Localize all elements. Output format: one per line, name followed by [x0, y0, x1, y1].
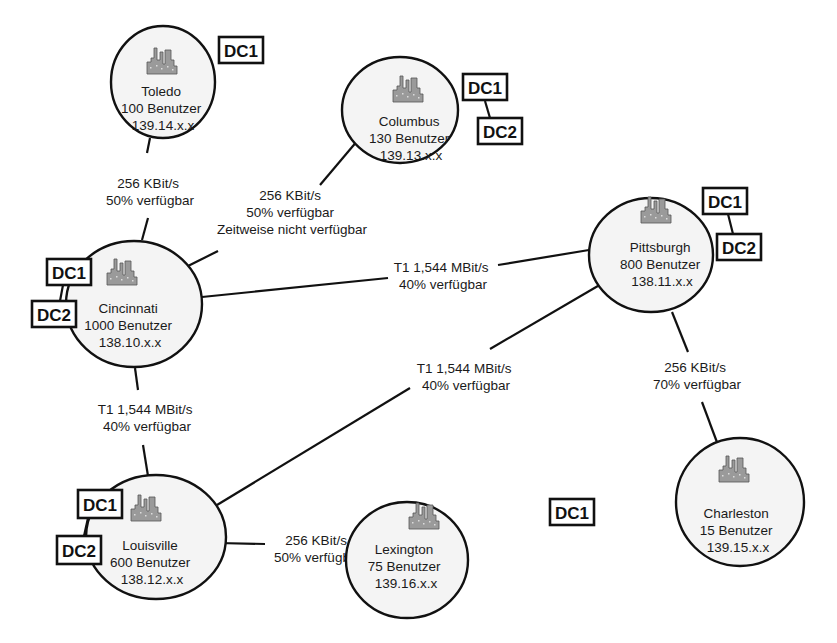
dc1-badge: DC1 [47, 259, 91, 285]
site-label: Pittsburgh 800 Benutzer 138.11.x.x [620, 240, 704, 289]
site-label-lines: Lexington 75 Benutzer 139.16.x.x [368, 542, 445, 591]
site-toledo[interactable]: Toledo 100 Benutzer 139.14.x.x DC1 [111, 26, 263, 138]
dc1-badge: DC1 [78, 490, 122, 518]
link-label: T1 1,544 MBit/s 40% verfügbar [98, 402, 196, 434]
svg-text:DC2: DC2 [483, 123, 517, 142]
dc2-badge: DC2 [478, 118, 522, 144]
site-louisville[interactable]: Louisville 600 Benutzer 138.12.x.x DC1 D… [57, 475, 226, 599]
link-label: T1 1,544 MBit/s 40% verfügbar [394, 260, 492, 292]
svg-text:DC2: DC2 [62, 542, 96, 561]
site-pittsburgh[interactable]: Pittsburgh 800 Benutzer 138.11.x.x DC1 D… [589, 188, 761, 312]
site-charleston[interactable]: Charleston 15 Benutzer 139.15.x.x [676, 438, 804, 566]
link-label: 256 KBit/s 70% verfügbar [653, 360, 741, 392]
link-label: 256 KBit/s 50% verfügbar Zeitweise nicht… [217, 188, 368, 237]
link-cincinnati-pittsburgh: T1 1,544 MBit/s 40% verfügbar [202, 250, 589, 297]
site-lexington[interactable]: Lexington 75 Benutzer 139.16.x.x DC1 [346, 499, 594, 618]
link-columbus-cincinnati: 256 KBit/s 50% verfügbar Zeitweise nicht… [188, 140, 368, 266]
svg-text:DC2: DC2 [37, 306, 71, 325]
site-cincinnati[interactable]: Cincinnati 1000 Benutzer 138.10.x.x DC1 … [32, 241, 202, 367]
dc1-badge: DC1 [703, 188, 747, 214]
svg-text:DC1: DC1 [83, 496, 117, 515]
site-label: Louisville 600 Benutzer 138.12.x.x [110, 538, 194, 587]
site-columbus[interactable]: Columbus 130 Benutzer 139.13.x.x DC1 DC2 [342, 57, 522, 163]
svg-text:DC1: DC1 [555, 504, 589, 523]
link-label: T1 1,544 MBit/s 40% verfügbar [417, 361, 515, 393]
svg-text:DC1: DC1 [52, 264, 86, 283]
site-label: Columbus 130 Benutzer 139.13.x.x [369, 114, 453, 163]
link-pittsburgh-charleston: 256 KBit/s 70% verfügbar [653, 312, 741, 445]
dc2-badge: DC2 [717, 234, 761, 260]
dc2-badge: DC2 [57, 536, 101, 564]
dc1-badge: DC1 [463, 74, 507, 100]
link-toledo-cincinnati: 256 KBit/s 50% verfügbar [106, 138, 194, 240]
svg-text:DC1: DC1 [468, 79, 502, 98]
dc1-badge: DC1 [550, 499, 594, 525]
link-louisville-pittsburgh: T1 1,544 MBit/s 40% verfügbar [217, 283, 603, 505]
network-diagram: 256 KBit/s 50% verfügbar 256 KBit/s 50% … [0, 0, 837, 643]
dc2-badge: DC2 [32, 301, 76, 327]
svg-text:DC1: DC1 [708, 193, 742, 212]
link-label: 256 KBit/s 50% verfügbar [106, 176, 194, 208]
dc1-badge: DC1 [219, 37, 263, 63]
site-label: Charleston 15 Benutzer 139.15.x.x [700, 506, 777, 555]
svg-text:DC1: DC1 [224, 42, 258, 61]
svg-text:DC2: DC2 [722, 239, 756, 258]
link-cincinnati-louisville: T1 1,544 MBit/s 40% verfügbar [98, 368, 196, 476]
